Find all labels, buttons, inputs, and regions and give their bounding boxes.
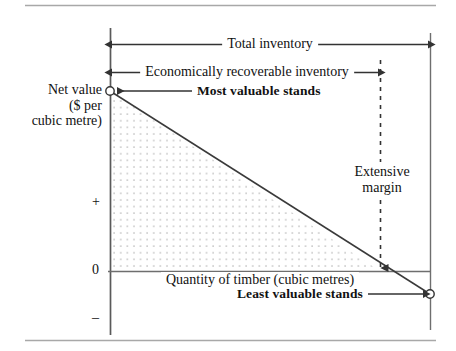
y-axis-title-line-1: Net value <box>18 82 102 98</box>
y-tick-plus: + <box>92 194 100 210</box>
least-valuable-stands-label: Least valuable stands <box>232 286 368 301</box>
y-axis-title-line-2: ($ per <box>18 98 102 114</box>
y-axis-title: Net value ($ per cubic metre) <box>18 82 102 129</box>
y-tick-minus: – <box>92 310 99 326</box>
x-axis-title: Quantity of timber (cubic metres) <box>161 272 359 288</box>
least-valuable-stand-marker <box>426 290 434 298</box>
total-inventory-label: Total inventory <box>222 36 318 52</box>
most-valuable-stand-marker <box>106 87 114 95</box>
y-tick-zero: 0 <box>92 262 99 278</box>
extensive-margin-label-line-1: Extensive <box>354 164 409 180</box>
extensive-margin-label: Extensive margin <box>352 164 411 195</box>
shaded-economic-rent-area <box>110 91 380 271</box>
extensive-margin-label-line-2: margin <box>354 180 409 196</box>
y-axis-title-line-3: cubic metre) <box>18 113 102 129</box>
figure-container: Net value ($ per cubic metre) + 0 – Tota… <box>0 0 456 351</box>
economically-recoverable-inventory-label: Economically recoverable inventory <box>140 64 354 80</box>
most-valuable-stands-label: Most valuable stands <box>192 83 326 98</box>
